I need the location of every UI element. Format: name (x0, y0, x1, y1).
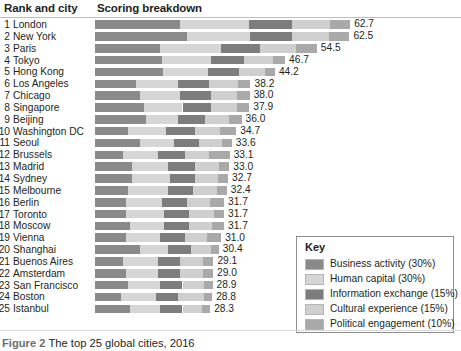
bar-segment (191, 245, 211, 254)
row-rank: 24 (0, 291, 10, 303)
bar-segment (168, 245, 190, 254)
row-label: 24Boston (0, 291, 90, 303)
bar-segment (296, 44, 316, 53)
bar-segment (95, 198, 126, 207)
row-rank: 5 (0, 66, 10, 78)
row-rank: 21 (0, 256, 10, 268)
legend-label: Information exchange (15%) (330, 287, 458, 301)
bar-segment (203, 257, 213, 266)
bar-segment (95, 222, 130, 231)
chart-row: 16Berlin31.7 (0, 197, 461, 209)
row-rank: 3 (0, 43, 10, 55)
row-rank: 18 (0, 220, 10, 232)
row-total-value: 38.0 (254, 89, 274, 101)
legend-swatch (305, 274, 324, 285)
row-total-value: 62.5 (353, 30, 373, 42)
legend-swatch (305, 289, 324, 300)
bar-segment (162, 56, 211, 65)
stacked-bar (95, 32, 395, 41)
bar-segment (330, 20, 350, 29)
row-rank: 11 (0, 137, 10, 149)
header-divider (0, 17, 461, 18)
stacked-bar (95, 44, 395, 53)
bar-segment (205, 115, 229, 124)
row-label: 1London (0, 19, 90, 31)
bar-segment (168, 162, 194, 171)
chart-row: 10Washington DC34.7 (0, 126, 461, 138)
row-city-name: Paris (13, 43, 36, 55)
row-total-value: 29.1 (217, 255, 237, 267)
bar-segment (222, 139, 232, 148)
chart-row: 15Melbourne32.4 (0, 185, 461, 197)
bar-segment (211, 245, 219, 254)
bar-segment (126, 269, 159, 278)
bar-segment (140, 139, 175, 148)
bar-segment (160, 281, 182, 290)
bar-segment (260, 44, 297, 53)
bar-segment (95, 91, 140, 100)
row-rank: 14 (0, 173, 10, 185)
bar-segment (204, 293, 212, 302)
row-label: 14Sydney (0, 173, 90, 185)
row-city-name: Brussels (13, 149, 52, 161)
row-total-value: 32.4 (231, 184, 251, 196)
chart-row: 6Los Angeles38.2 (0, 78, 461, 90)
bar-segment (217, 186, 227, 195)
chart-row: 11Seoul33.6 (0, 137, 461, 149)
row-label: 8Singapore (0, 102, 90, 114)
row-total-value: 38.2 (254, 78, 274, 90)
stacked-bar (95, 80, 395, 89)
bar-segment (178, 80, 209, 89)
row-label: 15Melbourne (0, 185, 90, 197)
row-city-name: Buenos Aires (13, 256, 73, 268)
bar-segment (221, 44, 260, 53)
row-city-name: Chicago (13, 90, 50, 102)
row-total-value: 54.5 (321, 42, 341, 54)
bar-segment (180, 257, 203, 266)
bar-segment (160, 305, 182, 314)
row-city-name: New York (13, 31, 56, 43)
bar-segment (249, 20, 292, 29)
row-label: 17Toronto (0, 209, 90, 221)
row-rank: 6 (0, 78, 10, 90)
bar-segment (180, 269, 202, 278)
bar-segment (132, 174, 171, 183)
bar-segment (237, 91, 249, 100)
row-total-value: 29.0 (217, 267, 237, 279)
bar-segment (187, 32, 250, 41)
row-city-name: Berlin (13, 197, 39, 209)
bar-segment (209, 151, 229, 160)
bar-segment (144, 103, 183, 112)
row-rank: 10 (0, 126, 10, 138)
stacked-bar (95, 20, 395, 29)
row-total-value: 34.7 (240, 125, 260, 137)
row-label: 23San Francisco (0, 280, 90, 292)
row-rank: 25 (0, 303, 10, 315)
row-rank: 23 (0, 280, 10, 292)
bar-segment (95, 80, 136, 89)
bar-segment (183, 305, 203, 314)
bar-segment (140, 245, 168, 254)
row-label: 5Hong Kong (0, 66, 90, 78)
bar-segment (136, 80, 179, 89)
chart-row: 17Toronto31.7 (0, 209, 461, 221)
stacked-bar (95, 103, 395, 112)
row-total-value: 44.2 (279, 66, 299, 78)
bar-segment (162, 198, 186, 207)
row-total-value: 31.7 (228, 208, 248, 220)
stacked-bar (95, 91, 395, 100)
stacked-bar (95, 68, 395, 77)
bar-segment (123, 257, 158, 266)
bar-segment (329, 32, 349, 41)
bar-segment (160, 233, 184, 242)
row-city-name: Moscow (13, 220, 50, 232)
bar-segment (273, 56, 285, 65)
row-rank: 7 (0, 90, 10, 102)
legend-label: Cultural experience (15%) (330, 302, 448, 316)
legend-item: Cultural experience (15%) (305, 302, 453, 317)
bar-segment (95, 44, 160, 53)
bar-segment (95, 56, 162, 65)
bar-segment (250, 32, 293, 41)
row-rank: 12 (0, 149, 10, 161)
chart-legend: Key Business activity (30%)Human capital… (296, 236, 454, 333)
